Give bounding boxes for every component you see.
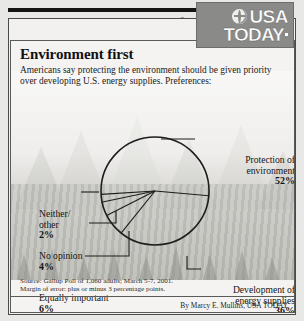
value-protection: 52%	[211, 176, 295, 187]
source-note: Source: Gallup Poll of 1,060 adults; Mar…	[20, 277, 286, 293]
label-protection-line2: environment	[247, 165, 296, 176]
logo-dot	[285, 33, 288, 36]
subheadline: Americans say protecting the environment…	[20, 65, 286, 87]
label-neither-line2: other	[39, 219, 59, 230]
label-noopinion-text: No opinion	[39, 250, 82, 261]
slice-divider-equally-noopinion	[107, 191, 155, 215]
label-equally-text: Equally important	[39, 292, 109, 303]
logo-usa-text: USA	[249, 7, 288, 26]
snapshot-infographic: USA TODAY USA TODAY Snapshots®	[0, 0, 304, 321]
logo-today-text: TODAY	[224, 25, 284, 44]
source-line: Source: Gallup Poll of 1,060 adults; Mar…	[20, 277, 286, 285]
globe-icon	[232, 9, 247, 24]
content-panel: Environment first Americans say protecti…	[10, 40, 295, 313]
value-neither: 2%	[39, 230, 99, 241]
label-protection-line1: Protection of	[245, 154, 295, 165]
usa-today-logo: USA TODAY	[196, 2, 294, 48]
byline: By Marcy E. Mullins, USA TODAY	[180, 301, 288, 310]
slice-divider-protection-development	[155, 191, 209, 196]
leader-development	[187, 256, 201, 269]
label-neither-line1: Neither/	[39, 208, 70, 219]
headline: Environment first	[20, 46, 133, 63]
label-protection-of-environment: Protection of environment 52%	[211, 155, 295, 187]
label-neither-other: Neither/ other 2%	[39, 209, 99, 241]
value-equally: 6%	[39, 304, 149, 314]
margin-of-error-line: Margin of error: plus or minus 3 percent…	[20, 285, 286, 293]
masthead-rule	[8, 8, 198, 12]
value-noopinion: 4%	[39, 262, 109, 273]
label-no-opinion: No opinion 4%	[39, 251, 109, 272]
footer-divider	[11, 296, 294, 297]
